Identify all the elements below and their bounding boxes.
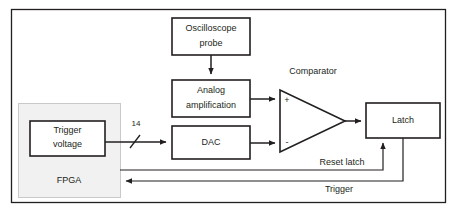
- trigger-voltage-label-line2: voltage: [53, 139, 82, 149]
- oscilloscope-probe-label-line1: Oscilloscope: [185, 23, 236, 33]
- block-diagram: FPGA Trigger voltage Oscilloscope probe …: [0, 0, 454, 212]
- latch-label: Latch: [392, 115, 414, 125]
- comparator-label: Comparator: [289, 66, 337, 76]
- analog-amplification-label-line2: amplification: [186, 100, 236, 110]
- analog-amplification-label-line1: Analog: [197, 85, 225, 95]
- dac-label: DAC: [201, 137, 221, 147]
- comparator-triangle: [280, 90, 345, 152]
- comparator-minus-label: -: [286, 137, 289, 147]
- trigger-label: Trigger: [325, 184, 353, 194]
- comparator-plus-label: +: [284, 95, 289, 105]
- oscilloscope-probe-label-line2: probe: [199, 38, 222, 48]
- fpga-label: FPGA: [57, 175, 82, 185]
- diagram-canvas: FPGA Trigger voltage Oscilloscope probe …: [0, 0, 454, 212]
- trigger-voltage-label-line1: Trigger: [53, 125, 81, 135]
- bus-width-label: 14: [132, 119, 141, 128]
- reset-latch-label: Reset latch: [319, 157, 364, 167]
